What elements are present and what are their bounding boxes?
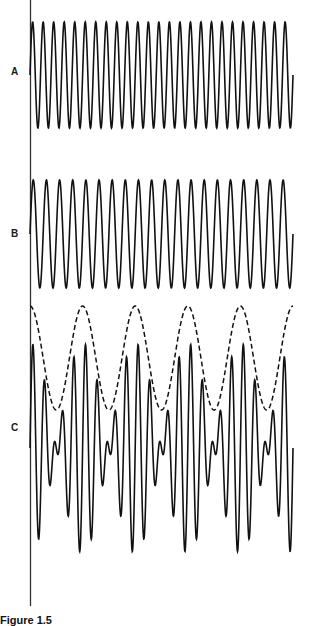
wave-c-sum-path — [30, 345, 293, 552]
wave-label-b: B — [11, 229, 18, 239]
wave-a-path — [30, 22, 293, 128]
wave-label-c: C — [11, 423, 18, 433]
wave-label-a: A — [11, 67, 18, 77]
wave-b-path — [30, 180, 293, 288]
figure-caption: Figure 1.5 — [0, 614, 52, 626]
